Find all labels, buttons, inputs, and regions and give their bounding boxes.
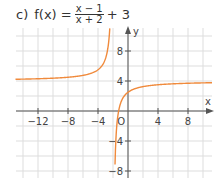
x-tick-label: −4: [91, 116, 106, 127]
origin-label: O: [117, 116, 125, 127]
x-axis-label: x: [205, 96, 211, 107]
x-axis-arrow-icon: [206, 108, 214, 114]
y-tick-label: 4: [117, 76, 123, 87]
function-graph: −12−8−44884−4−8Oxy: [0, 0, 221, 193]
x-tick-label: −12: [27, 116, 48, 127]
tick-labels: −12−8−44884−4−8Oxy: [27, 26, 211, 177]
y-axis-label: y: [133, 26, 139, 37]
grid: [16, 28, 212, 178]
x-tick-label: 8: [185, 116, 191, 127]
x-tick-label: −8: [61, 116, 76, 127]
y-axis-arrow-icon: [125, 26, 131, 34]
curve-right-branch: [115, 83, 212, 165]
y-tick-label: −8: [108, 166, 123, 177]
x-tick-label: 4: [155, 116, 161, 127]
y-tick-label: 8: [117, 46, 123, 57]
